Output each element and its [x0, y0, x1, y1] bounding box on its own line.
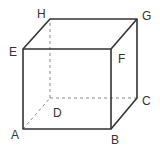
label-C: C [142, 94, 151, 108]
edge-AD [23, 98, 50, 129]
front-face [23, 49, 111, 129]
top-face-edges [23, 19, 137, 49]
label-E: E [9, 45, 17, 59]
label-H: H [37, 7, 46, 21]
cube-diagram: H G E F C D A B [0, 0, 160, 153]
label-D: D [53, 106, 62, 120]
right-face-edges [111, 19, 137, 129]
label-G: G [142, 9, 151, 23]
label-A: A [11, 128, 19, 142]
label-F: F [118, 52, 125, 66]
hidden-edges [23, 19, 137, 129]
label-B: B [111, 133, 119, 147]
solid-edges [23, 19, 137, 129]
